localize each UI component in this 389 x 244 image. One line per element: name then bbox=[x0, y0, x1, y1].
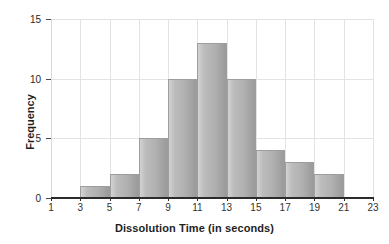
x-axis-tick-label: 7 bbox=[136, 202, 142, 213]
histogram-bar bbox=[227, 79, 256, 198]
gridline-vertical bbox=[110, 19, 111, 198]
x-axis-tick bbox=[256, 197, 257, 201]
y-axis-tick-label: 15 bbox=[0, 14, 41, 25]
y-axis-tick-label: 0 bbox=[0, 193, 41, 204]
y-axis-tick bbox=[46, 138, 51, 139]
gridline-vertical bbox=[344, 19, 345, 198]
y-axis-tick bbox=[46, 79, 51, 80]
x-axis-tick bbox=[197, 197, 198, 201]
x-axis-tick bbox=[227, 197, 228, 201]
y-axis-line bbox=[51, 19, 52, 199]
x-axis-tick bbox=[51, 197, 52, 201]
histogram-bar bbox=[110, 174, 139, 198]
x-axis-tick bbox=[314, 197, 315, 201]
x-axis-line bbox=[51, 197, 373, 199]
x-axis-title: Dissolution Time (in seconds) bbox=[0, 222, 389, 234]
x-axis-tick-label: 11 bbox=[192, 202, 202, 213]
gridline-vertical bbox=[80, 19, 81, 198]
x-axis-tick bbox=[168, 197, 169, 201]
histogram-bar bbox=[285, 162, 314, 198]
x-axis-tick-label: 21 bbox=[338, 202, 349, 213]
x-axis-tick-label: 9 bbox=[165, 202, 171, 213]
x-axis-tick bbox=[139, 197, 140, 201]
histogram-bar bbox=[197, 43, 226, 198]
histogram-bar bbox=[139, 138, 168, 198]
x-axis-tick-label: 19 bbox=[309, 202, 320, 213]
x-axis-tick bbox=[110, 197, 111, 201]
x-axis-tick-label: 13 bbox=[221, 202, 232, 213]
x-axis-tick-label: 17 bbox=[280, 202, 291, 213]
histogram-bar bbox=[256, 150, 285, 198]
y-axis-title: Frequency bbox=[24, 94, 36, 150]
histogram-bar bbox=[314, 174, 343, 198]
gridline-vertical bbox=[373, 19, 374, 198]
x-axis-tick bbox=[373, 197, 374, 201]
y-axis-tick-label: 10 bbox=[0, 73, 41, 84]
gridline-vertical bbox=[314, 19, 315, 198]
x-axis-tick bbox=[285, 197, 286, 201]
histogram-chart: 051015 1357911131517192123 Frequency Dis… bbox=[0, 0, 389, 244]
x-axis-tick-label: 1 bbox=[48, 202, 54, 213]
x-axis-tick-label: 5 bbox=[107, 202, 113, 213]
x-axis-tick-label: 3 bbox=[77, 202, 83, 213]
x-axis-tick-label: 23 bbox=[367, 202, 378, 213]
y-axis-tick bbox=[46, 19, 51, 20]
x-axis-tick bbox=[344, 197, 345, 201]
x-axis-tick bbox=[80, 197, 81, 201]
histogram-bar bbox=[168, 79, 197, 198]
gridline-horizontal bbox=[51, 19, 373, 20]
x-axis-tick-label: 15 bbox=[250, 202, 261, 213]
plot-area bbox=[51, 19, 373, 198]
